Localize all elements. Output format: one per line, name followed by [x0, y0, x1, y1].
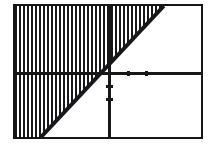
plot-area [15, 6, 201, 137]
calculator-screen [13, 4, 203, 139]
x-axis-tick-4 [145, 71, 148, 76]
y-axis-tick-neg4 [106, 98, 113, 101]
y-axis-tick-neg2 [106, 85, 113, 88]
x-axis-tick-2 [127, 71, 130, 76]
screenshot-root: Linear inequality graph: a solid boundar… [0, 0, 210, 144]
chart-description: Linear inequality graph: a solid boundar… [0, 0, 1, 1]
y-axis [108, 6, 111, 137]
